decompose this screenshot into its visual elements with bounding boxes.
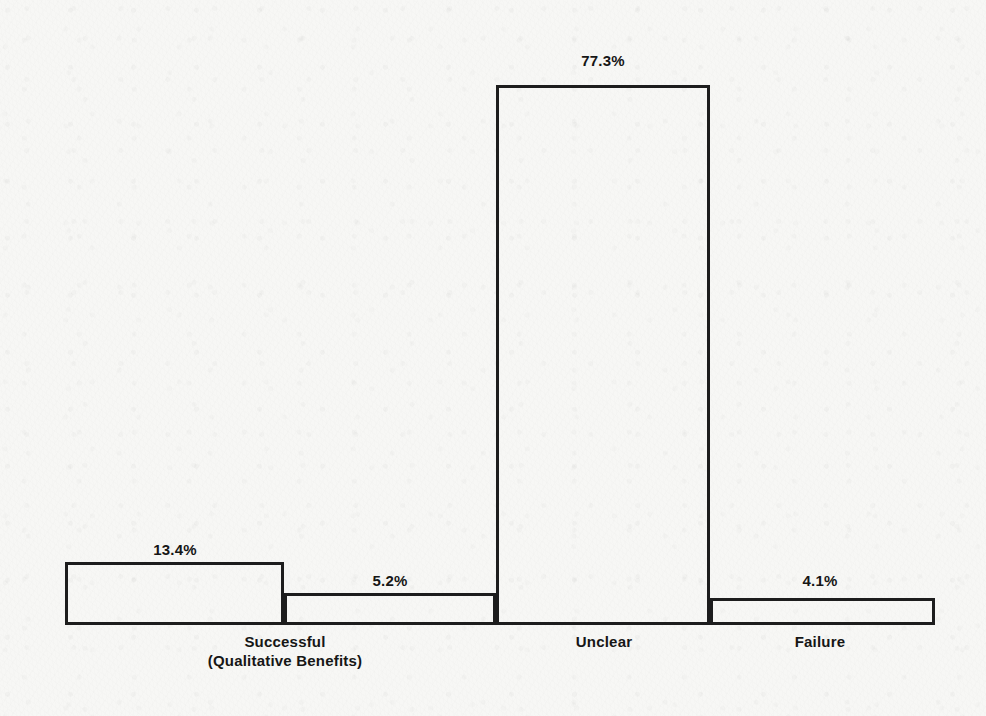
bar-successful <box>65 562 284 625</box>
tick-label-unclear: Unclear <box>576 632 632 651</box>
value-label-successful-secondary: 5.2% <box>373 572 408 589</box>
tick-label-failure-line1: Failure <box>795 633 846 650</box>
bar-unclear <box>496 85 710 625</box>
bar-chart-figure: 13.4% 5.2% 77.3% 4.1% Successful (Qualit… <box>0 0 986 716</box>
plot-area: 13.4% 5.2% 77.3% 4.1% Successful (Qualit… <box>0 0 986 716</box>
x-axis-baseline <box>65 622 935 625</box>
bar-failure <box>710 598 935 625</box>
tick-label-failure: Failure <box>795 632 846 651</box>
value-label-failure: 4.1% <box>803 572 838 589</box>
tick-label-successful-line2: (Qualitative Benefits) <box>208 651 362 670</box>
tick-label-successful: Successful (Qualitative Benefits) <box>208 632 362 670</box>
tick-label-unclear-line1: Unclear <box>576 633 632 650</box>
value-label-unclear: 77.3% <box>581 52 625 69</box>
tick-label-successful-line1: Successful <box>244 633 325 650</box>
value-label-successful: 13.4% <box>153 541 197 558</box>
bar-successful-secondary <box>284 593 496 625</box>
